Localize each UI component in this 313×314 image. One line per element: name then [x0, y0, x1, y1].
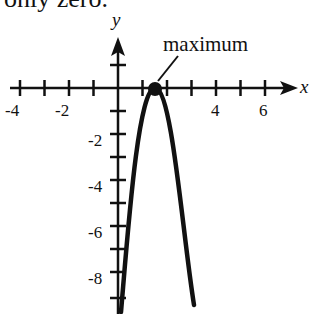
maximum-annotation: maximum — [163, 32, 248, 56]
x-tick-label: -4 — [5, 101, 20, 120]
annotation-leader-line — [158, 56, 178, 81]
y-tick-label: -8 — [88, 269, 102, 288]
parabola-curve — [121, 88, 194, 312]
y-tick-label: -6 — [88, 223, 102, 242]
y-tick-label: -2 — [88, 131, 102, 150]
parabola-graph: -4 -2 4 6 -2 -4 -6 -8 x y maximum — [0, 0, 313, 314]
x-tick-label: -2 — [55, 101, 69, 120]
x-tick-label: 6 — [259, 101, 268, 120]
x-axis-label: x — [299, 76, 309, 97]
x-tick-label: 4 — [211, 101, 220, 120]
maximum-point-marker — [148, 82, 162, 96]
y-tick-label: -4 — [88, 177, 103, 196]
y-axis-label: y — [110, 9, 121, 30]
